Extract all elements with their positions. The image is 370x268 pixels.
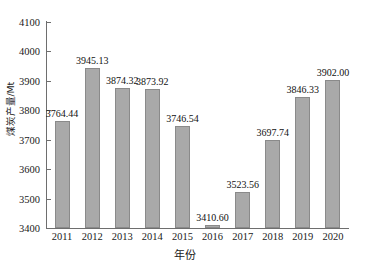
bar	[265, 140, 280, 228]
x-tick-label: 2011	[52, 231, 73, 242]
x-tick-label: 2013	[112, 231, 133, 242]
bar-value-label: 3764.44	[46, 108, 79, 119]
bar	[55, 121, 70, 228]
bar	[85, 68, 100, 228]
bar-value-label: 3902.00	[317, 67, 350, 78]
x-tick-label: 2018	[262, 231, 283, 242]
x-axis-line	[46, 228, 349, 229]
bar	[235, 192, 250, 228]
y-tick-label: 4000	[19, 46, 40, 57]
bar	[115, 88, 130, 228]
bar-value-label: 3746.54	[166, 113, 199, 124]
y-tick-label: 3800	[19, 105, 40, 116]
bar	[145, 89, 160, 228]
x-tick-label: 2017	[232, 231, 253, 242]
bar	[295, 97, 310, 228]
bar-value-label: 3846.33	[287, 84, 320, 95]
y-tick-label: 3600	[19, 164, 40, 175]
y-tick-label: 4100	[19, 17, 40, 28]
x-tick-label: 2012	[82, 231, 103, 242]
y-tick-label: 3700	[19, 134, 40, 145]
bar-value-label: 3873.92	[136, 76, 169, 87]
plot-area: 3764.443945.133874.323873.923746.543410.…	[47, 22, 348, 228]
y-tick-label: 3500	[19, 193, 40, 204]
bar-value-label: 3697.74	[257, 127, 290, 138]
x-tick-label: 2014	[142, 231, 163, 242]
x-axis-title: 年份	[0, 246, 370, 262]
x-tick-label: 2019	[292, 231, 313, 242]
x-tick-label: 2015	[172, 231, 193, 242]
y-tick-mark	[47, 228, 51, 229]
bar-chart: 煤炭产量/Mt 34003500360037003800390040004100…	[0, 0, 370, 268]
bar	[205, 225, 220, 228]
bar	[175, 126, 190, 228]
bar-value-label: 3410.60	[196, 212, 229, 223]
x-tick-label: 2016	[202, 231, 223, 242]
bar	[325, 80, 340, 228]
y-tick-label: 3400	[19, 223, 40, 234]
bar-value-label: 3874.32	[106, 75, 139, 86]
bar-value-label: 3945.13	[76, 55, 109, 66]
x-tick-label: 2020	[322, 231, 343, 242]
bar-value-label: 3523.56	[226, 179, 259, 190]
y-tick-label: 3900	[19, 75, 40, 86]
y-axis-title: 煤炭产量/Mt	[6, 64, 16, 154]
